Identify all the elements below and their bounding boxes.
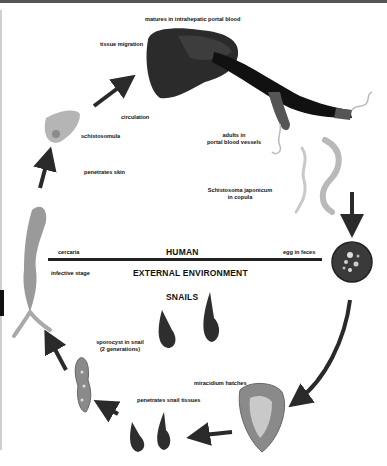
label-infective-stage: infective stage	[51, 270, 90, 277]
label-egg-in-feces: egg in feces	[283, 249, 315, 256]
label-miracidium-hatches: miracidium hatches	[194, 380, 247, 387]
label-species-line1: Schistosoma japonicum	[205, 187, 275, 194]
label-species: Schistosoma japonicum in copula	[205, 187, 275, 201]
label-schistosomula: schistosomula	[81, 133, 120, 140]
zone-snails: SNAILS	[166, 292, 198, 302]
schistosomula-icon	[45, 111, 80, 143]
label-cercaria: cercaria	[58, 249, 79, 256]
label-adults-line1: adults in	[203, 132, 265, 139]
arrow-to-schistosomula	[40, 158, 48, 188]
label-penetrates-skin: penetrates skin	[84, 169, 125, 176]
egg-icon	[332, 242, 372, 282]
arrow-to-snails-bottom	[198, 432, 232, 436]
label-circulation: circulation	[121, 114, 149, 121]
zone-human: HUMAN	[166, 247, 199, 257]
zone-external-environment: EXTERNAL ENVIRONMENT	[133, 268, 248, 278]
cercaria-icon	[14, 207, 50, 336]
label-matures: matures in intrahepatic portal blood	[145, 16, 240, 23]
label-species-line2: in copula	[205, 194, 275, 201]
human-environment-divider	[48, 258, 322, 261]
miracidium-icon	[239, 383, 284, 452]
label-tissue-migration: tissue migration	[100, 41, 143, 48]
arrow-to-sporocyst	[104, 406, 118, 414]
label-adults-line2: portal blood vessels	[203, 139, 265, 146]
arrow-to-liver	[94, 82, 126, 106]
sporocyst-icon	[75, 358, 91, 412]
label-sporocyst-line1: sporocyst in snail	[88, 339, 152, 346]
label-penetrates-snail: penetrates snail tissues	[137, 397, 200, 404]
arrow-to-miracidium	[298, 300, 350, 400]
snail-pair-bottom-icon	[130, 412, 170, 452]
label-sporocyst: sporocyst in snail (2 generations)	[88, 339, 152, 353]
label-adults: adults in portal blood vessels	[203, 132, 265, 146]
label-sporocyst-line2: (2 generations)	[88, 346, 152, 353]
arrow-to-cercaria	[50, 340, 66, 370]
worm-pair-icon	[296, 140, 339, 212]
